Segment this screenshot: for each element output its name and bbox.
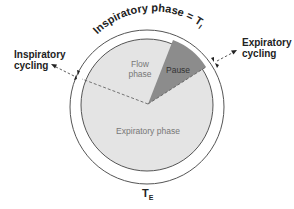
arrowhead-icon (211, 57, 214, 62)
expiratory-cycling-arrow (217, 52, 234, 61)
arrowhead-icon (215, 63, 219, 68)
expiratory-phase-label: Expiratory phase (112, 126, 184, 136)
label-line: cycling (14, 60, 66, 71)
pause-label: Pause (166, 65, 190, 75)
label-line: cycling (242, 48, 291, 59)
expiratory-cycling-label: Expiratory cycling (242, 37, 291, 59)
te-label: TE (142, 188, 153, 200)
cycle-diagram: Inspiratory phase = TI (0, 0, 294, 209)
arrowhead-icon (231, 50, 237, 55)
te-sub: E (149, 194, 154, 201)
label-line: Flow (120, 59, 160, 69)
te-main: T (142, 187, 149, 199)
label-line: phase (120, 69, 160, 79)
flow-phase-label: Flow phase (120, 59, 160, 79)
inspiratory-cycling-label: Inspiratory cycling (14, 49, 66, 71)
label-line: Inspiratory (14, 49, 66, 60)
label-line: Expiratory (242, 37, 291, 48)
